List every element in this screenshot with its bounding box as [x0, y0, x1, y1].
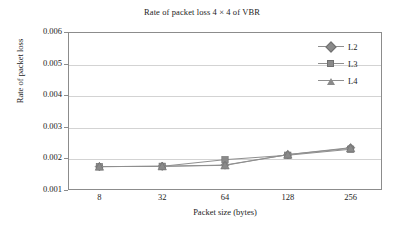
legend-diamond-icon	[318, 42, 344, 52]
legend-item-label: L3	[344, 59, 357, 69]
legend-square-icon	[318, 59, 344, 69]
chart-legend: L2L3L4	[318, 38, 378, 89]
x-axis-title: Packet size (bytes)	[68, 207, 382, 217]
chart-figure: Rate of packet loss 4 × 4 of VBR Rate of…	[0, 0, 404, 229]
legend-item-label: L4	[344, 76, 357, 86]
legend-item-l2[interactable]: L2	[318, 38, 378, 55]
legend-item-l3[interactable]: L3	[318, 55, 378, 72]
series-layer	[0, 0, 404, 229]
legend-item-l4[interactable]: L4	[318, 72, 378, 89]
legend-item-label: L2	[344, 42, 357, 52]
legend-triangle-icon	[318, 76, 344, 86]
